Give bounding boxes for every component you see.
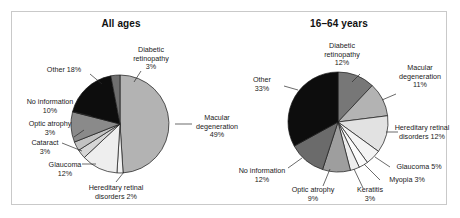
figure-frame: All ages Maculardegeneration49%Hereditar…	[11, 11, 447, 205]
leader-line	[382, 94, 396, 100]
slice-label: Glaucoma12%	[49, 160, 82, 178]
leader-line	[323, 169, 330, 186]
slice-label: No information10%	[27, 97, 74, 115]
slice-label: Cataract3%	[31, 138, 58, 156]
pie-slice	[120, 75, 169, 173]
leader-line	[375, 157, 390, 167]
slice-label: Hereditary retinaldisorders 12%	[395, 123, 450, 141]
slice-label: Optic atrophy3%	[29, 119, 72, 137]
pie-chart-all-ages: Maculardegeneration49%Hereditary retinal…	[12, 12, 230, 206]
slice-label: Hereditary retinaldisorders 2%	[89, 183, 144, 201]
slice-label: Glaucoma 5%	[396, 162, 442, 171]
leader-line	[284, 86, 298, 90]
slice-label: Myopia 3%	[389, 175, 425, 184]
chart-panel-16-64-years: 16–64 years Diabeticretinopathy12%Macula…	[230, 12, 448, 206]
chart-panel-all-ages: All ages Maculardegeneration49%Hereditar…	[12, 12, 230, 206]
pie-chart-16-64-years: Diabeticretinopathy12%Maculardegeneratio…	[230, 12, 448, 206]
leader-line	[364, 164, 380, 180]
slice-label: No information12%	[239, 166, 286, 184]
slice-label: Diabeticretinopathy3%	[133, 45, 169, 71]
leader-line	[288, 158, 302, 168]
slice-label: Maculardegeneration11%	[399, 63, 441, 89]
slice-label: Other 18%	[47, 65, 82, 74]
leader-line	[116, 172, 124, 182]
slice-label: Other33%	[253, 75, 272, 93]
slice-label: Keratitis3%	[357, 185, 383, 203]
slice-label: Diabeticretinopathy12%	[324, 41, 360, 67]
slice-label: Optic atrophy9%	[292, 185, 335, 203]
